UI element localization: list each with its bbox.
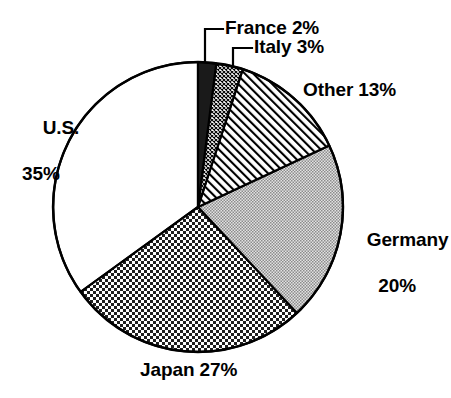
italy-leader-line: [233, 48, 252, 67]
slice-label-germany-name: Germany: [367, 229, 449, 250]
slice-label-germany-value: 20%: [346, 274, 448, 297]
france-leader-line: [205, 29, 223, 62]
pie-slices: [53, 62, 343, 352]
slice-label-us-name: U.S.: [43, 117, 80, 138]
pie-chart-figure: U.S. 35% France 2% Italy 3% Other 13% Ge…: [0, 0, 451, 398]
slice-label-us-value: 35%: [22, 162, 79, 185]
slice-label-japan: Japan 27%: [140, 359, 237, 381]
slice-label-germany: Germany 20%: [346, 205, 448, 343]
slice-label-us: U.S. 35%: [22, 93, 79, 231]
slice-label-italy: Italy 3%: [254, 36, 324, 58]
slice-label-other: Other 13%: [303, 79, 396, 101]
